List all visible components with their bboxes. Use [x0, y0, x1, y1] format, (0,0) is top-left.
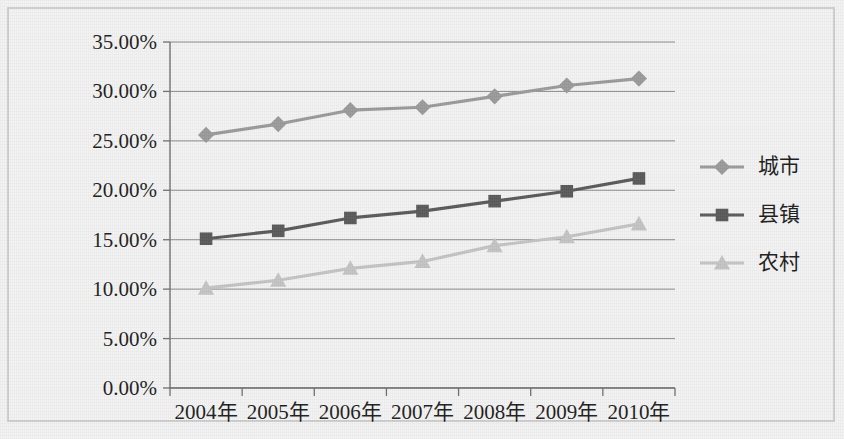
legend-label-县镇: 县镇: [758, 202, 800, 226]
y-tick-label: 0.00%: [103, 376, 157, 400]
data-series-group: [198, 70, 647, 294]
chart-legend: 城市县镇农村: [700, 154, 800, 274]
x-tick-label: 2006年: [319, 400, 382, 424]
legend-marker-城市: [714, 159, 730, 175]
line-chart-plot: 0.00%5.00%10.00%15.00%20.00%25.00%30.00%…: [0, 0, 844, 439]
data-point-marker: [631, 70, 647, 86]
legend-label-城市: 城市: [758, 154, 800, 178]
data-point-marker: [270, 116, 286, 132]
legend-marker-县镇: [716, 209, 729, 222]
y-tick-label: 10.00%: [92, 277, 157, 301]
data-point-marker: [200, 232, 213, 245]
chart-figure: 0.00%5.00%10.00%15.00%20.00%25.00%30.00%…: [0, 0, 844, 439]
data-point-marker: [487, 88, 503, 104]
x-axis-tick-labels: 2004年2005年2006年2007年2008年2009年2010年: [170, 388, 675, 424]
data-point-marker: [272, 225, 285, 238]
x-tick-label: 2010年: [607, 400, 670, 424]
series-城市: [198, 70, 647, 143]
x-tick-label: 2009年: [535, 400, 598, 424]
data-point-marker: [416, 205, 429, 218]
legend-label-农村: 农村: [758, 250, 800, 274]
y-tick-label: 35.00%: [92, 30, 157, 54]
y-tick-label: 30.00%: [92, 79, 157, 103]
data-point-marker: [342, 102, 358, 118]
y-tick-label: 15.00%: [92, 228, 157, 252]
data-point-marker: [344, 212, 357, 225]
x-tick-label: 2007年: [391, 400, 454, 424]
data-point-marker: [631, 216, 647, 231]
data-point-marker: [414, 99, 430, 115]
series-农村: [198, 216, 647, 295]
data-point-marker: [488, 195, 501, 208]
x-tick-label: 2004年: [175, 400, 238, 424]
y-tick-label: 25.00%: [92, 129, 157, 153]
data-point-marker: [560, 185, 573, 198]
y-tick-label: 5.00%: [103, 327, 157, 351]
y-tick-label: 20.00%: [92, 178, 157, 202]
y-axis-tick-labels: 0.00%5.00%10.00%15.00%20.00%25.00%30.00%…: [92, 30, 170, 400]
data-point-marker: [633, 172, 646, 185]
x-tick-label: 2008年: [463, 400, 526, 424]
x-tick-label: 2005年: [247, 400, 310, 424]
